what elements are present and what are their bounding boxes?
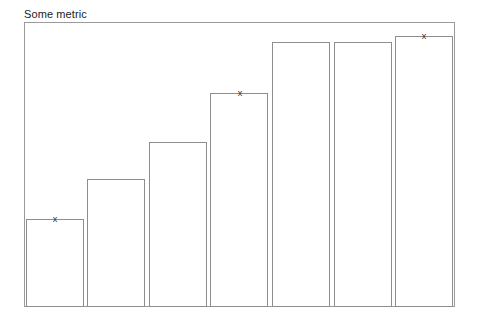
marker-x-1: x — [53, 215, 58, 224]
chart-title: Some metric — [24, 8, 91, 21]
bars-layer: xxx — [24, 22, 455, 307]
bar-4[interactable] — [210, 93, 268, 307]
bar-1[interactable] — [26, 219, 84, 307]
marker-x-4: x — [238, 89, 243, 98]
bar-2[interactable] — [87, 179, 145, 307]
marker-x-7: x — [422, 32, 427, 41]
bar-chart: Some metric xxx — [0, 0, 479, 329]
bar-5[interactable] — [272, 42, 330, 307]
bar-7[interactable] — [395, 36, 453, 307]
bar-3[interactable] — [149, 142, 207, 307]
bar-6[interactable] — [334, 42, 392, 307]
